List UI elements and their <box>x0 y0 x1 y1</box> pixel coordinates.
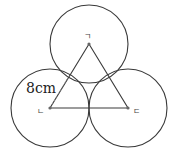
point-top <box>87 42 90 45</box>
label-right: ㄷ <box>133 107 140 116</box>
point-right <box>126 106 129 109</box>
center-triangle <box>50 44 128 108</box>
point-left <box>48 106 51 109</box>
radius-label: 8cm <box>26 80 56 96</box>
label-top: ㄱ <box>84 32 91 41</box>
three-circles-diagram: ㄱ ㄴ ㄷ 8cm <box>0 0 174 152</box>
label-left: ㄴ <box>37 107 44 116</box>
